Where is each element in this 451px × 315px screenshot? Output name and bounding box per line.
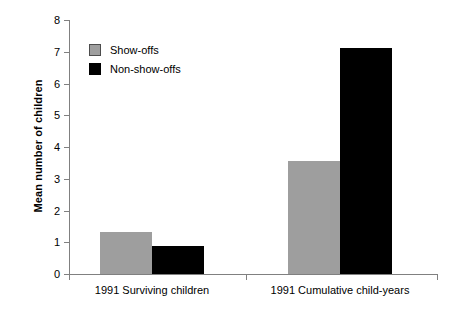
black-square-swatch-icon	[89, 63, 101, 75]
gray-square-swatch-icon	[89, 44, 101, 56]
x-axis-group-label: 1991 Cumulative child-years	[240, 284, 440, 296]
y-axis-tick-label: 0	[18, 274, 60, 275]
bar-show-offs	[288, 161, 340, 274]
legend-item-non-show-offs: Non-show-offs	[89, 59, 181, 78]
bar-non-show-offs	[340, 48, 392, 274]
x-axis-tick	[69, 274, 70, 280]
bars-layer	[0, 0, 451, 274]
bar-non-show-offs	[152, 246, 204, 274]
bar-show-offs	[100, 232, 152, 274]
legend: Show-offs Non-show-offs	[89, 40, 181, 78]
bar-chart: Mean number of children 012345678 1991 S…	[0, 0, 451, 315]
x-axis-line	[69, 274, 438, 275]
legend-label: Show-offs	[110, 44, 159, 56]
x-axis-tick	[246, 274, 247, 280]
legend-label: Non-show-offs	[110, 63, 181, 75]
legend-item-show-offs: Show-offs	[89, 40, 181, 59]
x-axis-group-label: 1991 Surviving children	[52, 284, 252, 296]
x-axis-tick	[437, 274, 438, 280]
